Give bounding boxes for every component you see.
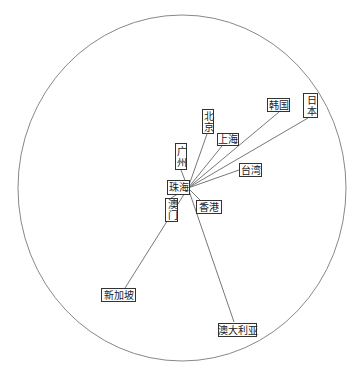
node-label-beijing: 北京 [203,111,214,133]
node-guangzhou[interactable]: 广州 [175,143,187,170]
node-australia[interactable]: 澳大利亚 [218,323,257,337]
node-label-macau: 澳门 [166,199,177,221]
node-taiwan[interactable]: 台湾 [239,163,262,177]
node-shanghai[interactable]: 上海 [217,133,239,146]
node-korea[interactable]: 韩国 [267,98,290,112]
node-label-japan: 日本 [305,95,316,117]
node-label-korea: 韩国 [269,100,289,111]
hub-node-zhuhai[interactable]: 珠海 [167,180,190,195]
spoke-singapore [125,188,188,288]
node-hongkong[interactable]: 香港 [196,200,222,214]
node-macau[interactable]: 澳门 [165,198,178,222]
node-label-taiwan: 台湾 [241,165,261,176]
node-label-shanghai: 上海 [218,134,238,145]
node-label-hongkong: 香港 [199,202,219,213]
node-label-singapore: 新加坡 [104,290,134,301]
node-japan[interactable]: 日本 [303,93,318,118]
node-label-guangzhou: 广州 [176,146,187,168]
node-label-australia: 澳大利亚 [218,325,258,336]
hub-label: 珠海 [169,182,189,193]
node-beijing[interactable]: 北京 [202,109,214,134]
node-singapore[interactable]: 新加坡 [101,288,136,302]
